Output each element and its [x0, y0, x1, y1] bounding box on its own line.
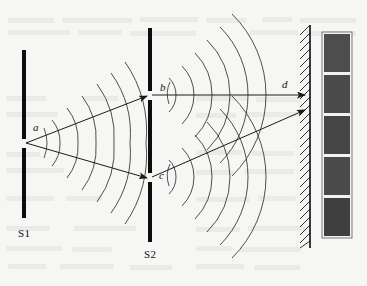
label-barrier-s2: S2	[144, 249, 156, 260]
wavefronts-source-c	[169, 96, 266, 258]
observation-screen	[300, 25, 310, 248]
label-slit-a: a	[33, 122, 39, 133]
label-slit-b: b	[160, 82, 166, 93]
label-ray-d: d	[282, 79, 288, 90]
angle-arc-a	[44, 128, 47, 158]
fringe-band	[324, 198, 350, 236]
slit-tick-b	[167, 82, 170, 104]
fringe-band	[324, 75, 350, 113]
barrier-s2	[148, 28, 152, 242]
screen-hatching	[300, 25, 310, 248]
ray-c-to-screen	[152, 110, 305, 177]
diagram-line-art	[0, 0, 367, 286]
label-slit-c: c	[159, 170, 164, 181]
label-barrier-s1: S1	[18, 228, 30, 239]
double-slit-diagram: a b c d S1 S2	[0, 0, 367, 286]
fringe-band	[324, 116, 350, 154]
ray-group	[26, 95, 305, 178]
fringe-band	[324, 157, 350, 195]
slit-tick-c	[167, 164, 170, 186]
wavefronts-source-a	[52, 62, 147, 224]
fringe-band	[324, 34, 350, 72]
barrier-s1	[22, 50, 26, 218]
fringe-pattern	[322, 32, 352, 238]
ray-a-to-c	[26, 143, 147, 178]
